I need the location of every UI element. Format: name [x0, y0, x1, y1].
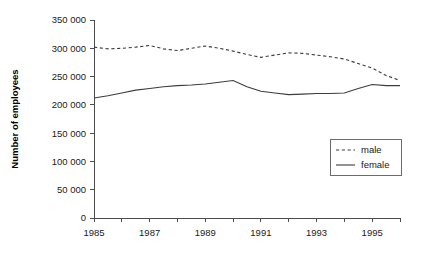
chart-canvas: 050 000100 000150 000200 000250 000300 0… [0, 0, 422, 261]
x-axis-tick-labels: 198519871989199119931995 [83, 227, 382, 238]
y-axis-title-text: Number of employees [9, 69, 20, 168]
y-tick-label: 150 000 [52, 128, 86, 139]
y-tick-label: 0 [81, 212, 86, 223]
y-tick-label: 300 000 [52, 43, 86, 54]
x-tick-label: 1991 [250, 227, 271, 238]
x-tick-label: 1987 [139, 227, 160, 238]
y-axis [90, 20, 94, 218]
x-tick-label: 1995 [362, 227, 383, 238]
y-tick-label: 350 000 [52, 14, 86, 25]
y-tick-label: 250 000 [52, 71, 86, 82]
legend-label-male: male [361, 144, 382, 155]
legend-label-female: female [361, 159, 390, 170]
y-tick-label: 100 000 [52, 156, 86, 167]
employees-line-chart: 050 000100 000150 000200 000250 000300 0… [0, 0, 422, 261]
y-axis-tick-labels: 050 000100 000150 000200 000250 000300 0… [52, 14, 86, 223]
data-series-group [94, 45, 400, 98]
y-tick-label: 200 000 [52, 99, 86, 110]
chart-legend: malefemale [330, 139, 401, 175]
y-tick-label: 50 000 [57, 184, 86, 195]
x-tick-label: 1993 [306, 227, 327, 238]
series-line-male [94, 45, 400, 80]
y-axis-title: Number of employees [9, 69, 20, 168]
series-line-female [94, 81, 400, 99]
x-tick-label: 1989 [195, 227, 216, 238]
x-axis [94, 218, 400, 222]
x-tick-label: 1985 [83, 227, 104, 238]
